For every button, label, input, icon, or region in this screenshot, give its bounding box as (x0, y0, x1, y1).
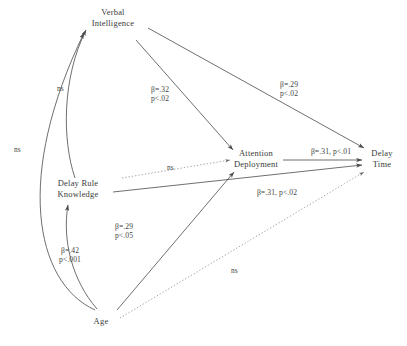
path-delay-rule-knowledge-to-delay-time (113, 165, 362, 192)
node-verbal-intelligence-line2: Intelligence (92, 18, 135, 29)
path-label-delay-rule-knowledge-to-delay-time: β=.31, p<.02 (257, 188, 297, 197)
node-attention-deployment-line1: Attention (234, 148, 278, 159)
path-age-to-verbal-intelligence (40, 33, 95, 310)
node-delay-time-line1: Delay (371, 148, 392, 159)
path-label-delay-rule-knowledge-to-verbal-intelligence: ns (57, 84, 64, 93)
pvalue-age-attention: p<.05 (115, 231, 133, 240)
path-verbal-intelligence-to-delay-time (148, 28, 364, 148)
node-verbal-intelligence-line1: Verbal (92, 7, 135, 18)
pvalue-vi-delaytime: p<.02 (280, 89, 298, 98)
pvalue-vi-attention: p<.02 (151, 94, 169, 103)
path-label-attention-deployment-to-delay-time: β=.31, p<.01 (311, 147, 351, 156)
beta-drk-delaytime: β=.31, p<.02 (257, 188, 297, 197)
pvalue-age-drk: p<.001 (59, 255, 81, 264)
node-age-line1: Age (94, 316, 109, 327)
beta-vi-delaytime: β=.29 (280, 80, 298, 89)
node-delay-rule-knowledge: Delay Rule Knowledge (58, 178, 99, 199)
path-delay-rule-knowledge-to-attention-deployment (122, 160, 230, 178)
path-age-to-delay-time (120, 172, 364, 318)
path-label-age-to-verbal-intelligence: ns (14, 145, 21, 154)
node-attention-deployment-line2: Deployment (234, 159, 278, 170)
beta-vi-attention: β=.32 (151, 85, 169, 94)
beta-age-drk: β=.42 (59, 246, 81, 255)
path-label-age-to-attention-deployment: β=.29 p<.05 (115, 222, 133, 240)
path-delay-rule-knowledge-to-verbal-intelligence (66, 30, 86, 178)
path-label-verbal-intelligence-to-delay-time: β=.29 p<.02 (280, 80, 298, 98)
node-delay-rule-knowledge-line2: Knowledge (58, 189, 99, 200)
node-delay-time-line2: Time (371, 159, 392, 170)
node-delay-rule-knowledge-line1: Delay Rule (58, 178, 99, 189)
path-label-age-to-delay-time: ns (231, 266, 238, 275)
path-label-delay-rule-knowledge-to-attention-deployment: ns (167, 163, 174, 172)
node-age: Age (94, 316, 109, 327)
path-age-to-attention-deployment (117, 172, 234, 310)
path-label-verbal-intelligence-to-attention-deployment: β=.32 p<.02 (151, 85, 169, 103)
node-attention-deployment: Attention Deployment (234, 148, 278, 169)
node-delay-time: Delay Time (371, 148, 392, 169)
path-diagram-canvas (0, 0, 407, 346)
node-verbal-intelligence: Verbal Intelligence (92, 7, 135, 28)
path-label-age-to-delay-rule-knowledge: β=.42 p<.001 (59, 246, 81, 264)
beta-attention-delaytime: β=.31, p<.01 (311, 147, 351, 156)
beta-age-attention: β=.29 (115, 222, 133, 231)
